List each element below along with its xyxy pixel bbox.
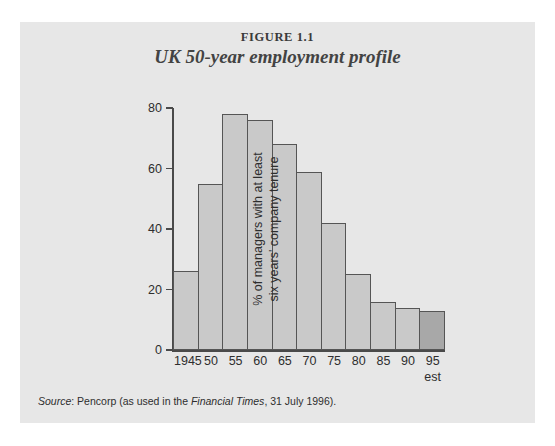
x-axis-label-85: 85 (371, 354, 396, 368)
y-axis-tick: 20 (166, 289, 173, 291)
bar-90: 90 (395, 308, 421, 350)
bar-95: 95est (419, 311, 445, 350)
x-axis-label-50: 50 (199, 354, 224, 368)
x-axis-label-55: 55 (223, 354, 248, 368)
x-axis-line (172, 350, 445, 352)
figure-panel: FIGURE 1.1 UK 50-year employment profile… (20, 22, 535, 423)
x-axis-label-60: 60 (248, 354, 273, 368)
y-axis-tick: 40 (166, 228, 173, 230)
source-text-1: : Pencorp (as used in the (71, 395, 191, 407)
bar-50: 50 (198, 184, 224, 350)
y-axis-tick: 0 (166, 349, 173, 351)
y-axis-tick: 60 (166, 168, 173, 170)
source-publication: Financial Times (191, 395, 264, 407)
source-label: Source (38, 395, 71, 407)
bar-75: 75 (321, 223, 347, 350)
bar-85: 85 (370, 302, 396, 350)
y-axis-tick: 80 (166, 107, 173, 109)
bar-70: 70 (296, 172, 322, 350)
plot-area: 020406080 194550556065707580859095est % … (173, 108, 444, 350)
y-axis-tick-label: 20 (148, 283, 162, 297)
chart-area: 020406080 194550556065707580859095est % … (133, 100, 444, 372)
y-axis-tick-label: 60 (148, 162, 162, 176)
x-axis-label-75: 75 (322, 354, 347, 368)
bar-1945: 1945 (173, 271, 199, 350)
x-axis-label-65: 65 (273, 354, 298, 368)
x-axis-label-80: 80 (346, 354, 371, 368)
y-axis-tick-label: 0 (155, 343, 162, 357)
y-axis-tick-label: 40 (148, 222, 162, 236)
bar-60: 60 (247, 120, 273, 350)
bar-80: 80 (345, 274, 371, 350)
figure-number: FIGURE 1.1 (20, 30, 535, 45)
x-axis-sublabel-95: est (420, 370, 445, 384)
figure-title: UK 50-year employment profile (20, 46, 535, 68)
source-text-2: , 31 July 1996). (264, 395, 336, 407)
x-axis-label-95: 95 (420, 354, 445, 368)
x-axis-label-90: 90 (396, 354, 421, 368)
x-axis-label-1945: 1945 (174, 354, 199, 368)
bar-65: 65 (272, 144, 298, 350)
source-note: Source: Pencorp (as used in the Financia… (38, 395, 336, 407)
y-axis-tick-label: 80 (148, 101, 162, 115)
bar-55: 55 (222, 114, 248, 350)
x-axis-label-70: 70 (297, 354, 322, 368)
